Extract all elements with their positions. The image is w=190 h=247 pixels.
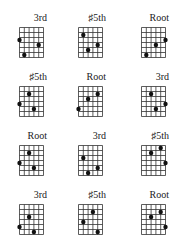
fretboard-svg <box>78 145 104 177</box>
fretboard-svg <box>78 27 104 59</box>
fretboard-grid <box>78 27 102 57</box>
finger-dot <box>96 166 100 170</box>
fretboard-svg <box>19 145 45 177</box>
fretboard-grid <box>141 27 165 57</box>
finger-dot <box>86 48 90 52</box>
chord-diagram: 3rd <box>19 13 45 61</box>
finger-dot <box>144 53 148 57</box>
finger-dot <box>163 102 167 106</box>
fretboard-svg <box>141 145 167 177</box>
chord-tone-label: 3rd <box>34 13 47 23</box>
finger-dot <box>17 161 21 165</box>
finger-dot <box>81 220 85 224</box>
finger-dot <box>86 171 90 175</box>
chord-tone-label: Root <box>150 13 169 23</box>
chord-tone-label: 3rd <box>34 190 47 200</box>
chord-diagram: ♯5th <box>78 190 104 238</box>
finger-dot <box>163 38 167 42</box>
chord-tone-label: Root <box>150 190 169 200</box>
finger-dot <box>32 107 36 111</box>
finger-dot <box>96 230 100 234</box>
finger-dot <box>27 215 31 219</box>
chord-diagram: Root <box>141 13 167 61</box>
fretboard-grid <box>141 204 165 234</box>
finger-dot <box>17 102 21 106</box>
fretboard-grid <box>19 86 43 116</box>
fretboard-grid <box>78 204 102 234</box>
finger-dot <box>32 166 36 170</box>
finger-dot <box>159 210 163 214</box>
chord-tone-label: Root <box>28 131 47 141</box>
chord-diagram: Root <box>141 190 167 238</box>
fretboard-grid <box>141 145 165 175</box>
finger-dot <box>91 210 95 214</box>
finger-dot <box>149 151 153 155</box>
fretboard-svg <box>78 86 104 118</box>
finger-dot <box>22 53 26 57</box>
finger-dot <box>27 92 31 96</box>
fretboard-grid <box>78 86 102 116</box>
finger-dot <box>159 146 163 150</box>
finger-dot <box>86 97 90 101</box>
chord-diagram: Root <box>19 131 45 179</box>
fretboard-svg <box>19 86 45 118</box>
chord-diagram: ♯5th <box>141 131 167 179</box>
finger-dot <box>96 43 100 47</box>
fretboard-grid <box>141 86 165 116</box>
fretboard-grid <box>19 204 43 234</box>
fretboard-svg <box>141 86 167 118</box>
finger-dot <box>76 107 80 111</box>
chord-tone-label: Root <box>87 72 106 82</box>
fretboard-svg <box>141 27 167 59</box>
finger-dot <box>81 156 85 160</box>
fretboard-grid <box>19 27 43 57</box>
chord-tone-label: 3rd <box>156 72 169 82</box>
finger-dot <box>32 230 36 234</box>
chord-tone-label: ♯5th <box>88 13 106 23</box>
fretboard-svg <box>19 27 45 59</box>
chord-diagram: 3rd <box>19 190 45 238</box>
finger-dot <box>27 151 31 155</box>
chord-tone-label: ♯5th <box>151 131 169 141</box>
fretboard-svg <box>78 204 104 236</box>
finger-dot <box>149 215 153 219</box>
fretboard-svg <box>19 204 45 236</box>
finger-dot <box>163 161 167 165</box>
finger-dot <box>149 92 153 96</box>
chord-tone-label: ♯5th <box>29 72 47 82</box>
chord-diagram: ♯5th <box>19 72 45 120</box>
fretboard-svg <box>141 204 167 236</box>
finger-dot <box>154 43 158 47</box>
finger-dot <box>17 225 21 229</box>
finger-dot <box>37 43 41 47</box>
chord-diagram: 3rd <box>78 131 104 179</box>
finger-dot <box>154 107 158 111</box>
chord-tone-label: 3rd <box>93 131 106 141</box>
fretboard-grid <box>19 145 43 175</box>
finger-dot <box>81 33 85 37</box>
chord-diagram: ♯5th <box>78 13 104 61</box>
chord-diagram: 3rd <box>141 72 167 120</box>
finger-dot <box>17 38 21 42</box>
chord-tone-label: ♯5th <box>88 190 106 200</box>
finger-dot <box>96 92 100 96</box>
finger-dot <box>163 225 167 229</box>
fretboard-grid <box>78 145 102 175</box>
chord-diagram: Root <box>78 72 104 120</box>
